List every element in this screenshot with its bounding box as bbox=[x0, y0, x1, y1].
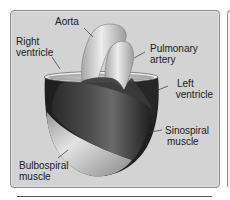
label-right-ventricle-line1: Right bbox=[16, 36, 53, 47]
label-aorta: Aorta bbox=[55, 16, 79, 27]
label-left-ventricle-line2: ventricle bbox=[170, 89, 213, 100]
label-right-ventricle: Right ventricle bbox=[16, 36, 53, 58]
label-sinospiral-line2: muscle bbox=[165, 136, 209, 147]
label-sinospiral-muscle: Sinospiral muscle bbox=[165, 125, 209, 147]
label-pulmonary-artery-line1: Pulmonary bbox=[150, 43, 198, 54]
label-aorta-text: Aorta bbox=[55, 16, 79, 27]
label-pulmonary-artery-line2: artery bbox=[150, 54, 198, 65]
label-bulbospiral-line2: muscle bbox=[19, 171, 68, 182]
label-bulbospiral-line1: Bulbospiral bbox=[19, 160, 68, 171]
label-left-ventricle: Left ventricle bbox=[170, 78, 213, 100]
label-sinospiral-line1: Sinospiral bbox=[165, 125, 209, 136]
label-pulmonary-artery: Pulmonary artery bbox=[150, 43, 198, 65]
label-right-ventricle-line2: ventricle bbox=[16, 47, 53, 58]
label-bulbospiral-muscle: Bulbospiral muscle bbox=[19, 160, 68, 182]
label-left-ventricle-line1: Left bbox=[170, 78, 213, 89]
